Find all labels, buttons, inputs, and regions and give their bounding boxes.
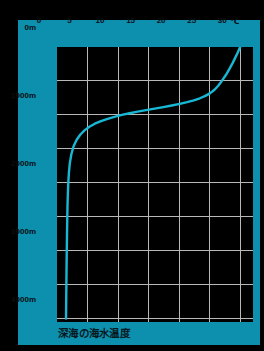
y-tick-label: 2000m (11, 158, 36, 167)
x-axis-unit-label: ℃ (230, 17, 239, 26)
y-tick-label: 1000m (11, 90, 36, 99)
y-tick-label: 4000m (11, 294, 36, 303)
x-tick-label: 15 (126, 16, 135, 25)
chart-caption: 深海の海水温度 (58, 325, 130, 340)
y-tick-label: 3000m (11, 226, 36, 235)
temperature-curve (57, 47, 253, 322)
chart-panel: 051015202530 0m1000m2000m3000m4000m ℃ 深海… (18, 20, 260, 345)
x-tick-label: 25 (187, 16, 196, 25)
x-tick-label: 5 (67, 16, 71, 25)
x-tick-label: 20 (157, 16, 166, 25)
x-tick-label: 10 (96, 16, 105, 25)
x-tick-label: 0 (37, 16, 41, 25)
x-tick-label: 30 (218, 16, 227, 25)
y-tick-label: 0m (24, 23, 36, 32)
plot-area (57, 47, 253, 322)
